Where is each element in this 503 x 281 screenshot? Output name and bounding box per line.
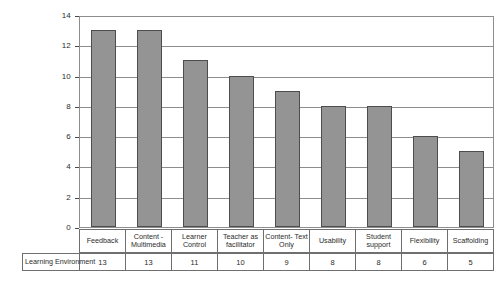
- bar: [367, 106, 392, 227]
- bar: [91, 30, 116, 227]
- category-label-cell: Flexibility: [402, 230, 448, 252]
- data-value-cell: 10: [218, 254, 264, 270]
- series-name-cell: Learning Environment: [23, 254, 80, 270]
- y-tick-mark-8: [75, 107, 79, 108]
- y-tick-mark-10: [75, 77, 79, 78]
- category-label-cell: Content- Text Only: [264, 230, 310, 252]
- y-axis-tick-labels: 14121086420: [43, 0, 71, 281]
- y-tick-mark-0: [75, 228, 79, 229]
- data-value-cell: 9: [264, 254, 310, 270]
- category-label-cell: Learner Control: [172, 230, 218, 252]
- y-tick-label: 14: [43, 12, 71, 20]
- y-tick-label: 2: [43, 194, 71, 202]
- data-value-cell: 13: [126, 254, 172, 270]
- y-tick-label: 12: [43, 42, 71, 50]
- data-value-cell: 11: [172, 254, 218, 270]
- data-value-cell: 8: [356, 254, 402, 270]
- data-value-cell: 5: [448, 254, 494, 270]
- y-tick-label: 8: [43, 103, 71, 111]
- data-value-cell: 6: [402, 254, 448, 270]
- y-tick-mark-12: [75, 46, 79, 47]
- y-tick-mark-2: [75, 198, 79, 199]
- bar: [413, 136, 438, 227]
- category-label-cell: Usability: [310, 230, 356, 252]
- category-label-cell: Content - Multimedia: [126, 230, 172, 252]
- category-label-cell: Teacher as facilitator: [218, 230, 264, 252]
- bar: [183, 60, 208, 227]
- gridline-14: [80, 16, 493, 17]
- y-tick-mark-4: [75, 167, 79, 168]
- data-table-row: Learning Environment 1313111098865: [22, 253, 494, 271]
- y-tick-label: 10: [43, 73, 71, 81]
- category-label-cell: Student support: [356, 230, 402, 252]
- category-label-cell: Scaffolding: [448, 230, 494, 252]
- plot-area: [79, 16, 494, 228]
- y-tick-label: 4: [43, 163, 71, 171]
- category-label-cell: Feedback: [80, 230, 126, 252]
- bar: [321, 106, 346, 227]
- bar: [275, 91, 300, 227]
- y-tick-mark-6: [75, 137, 79, 138]
- bar: [229, 76, 254, 227]
- bar: [137, 30, 162, 227]
- data-value-cell: 13: [80, 254, 126, 270]
- y-tick-label: 0: [43, 224, 71, 232]
- bar-chart-figure: 14121086420 FeedbackContent - Multimedia…: [0, 0, 503, 281]
- y-tick-label: 6: [43, 133, 71, 141]
- bar: [459, 151, 484, 227]
- y-tick-mark-14: [75, 16, 79, 17]
- category-label-row: FeedbackContent - MultimediaLearner Cont…: [79, 229, 494, 253]
- data-value-cell: 8: [310, 254, 356, 270]
